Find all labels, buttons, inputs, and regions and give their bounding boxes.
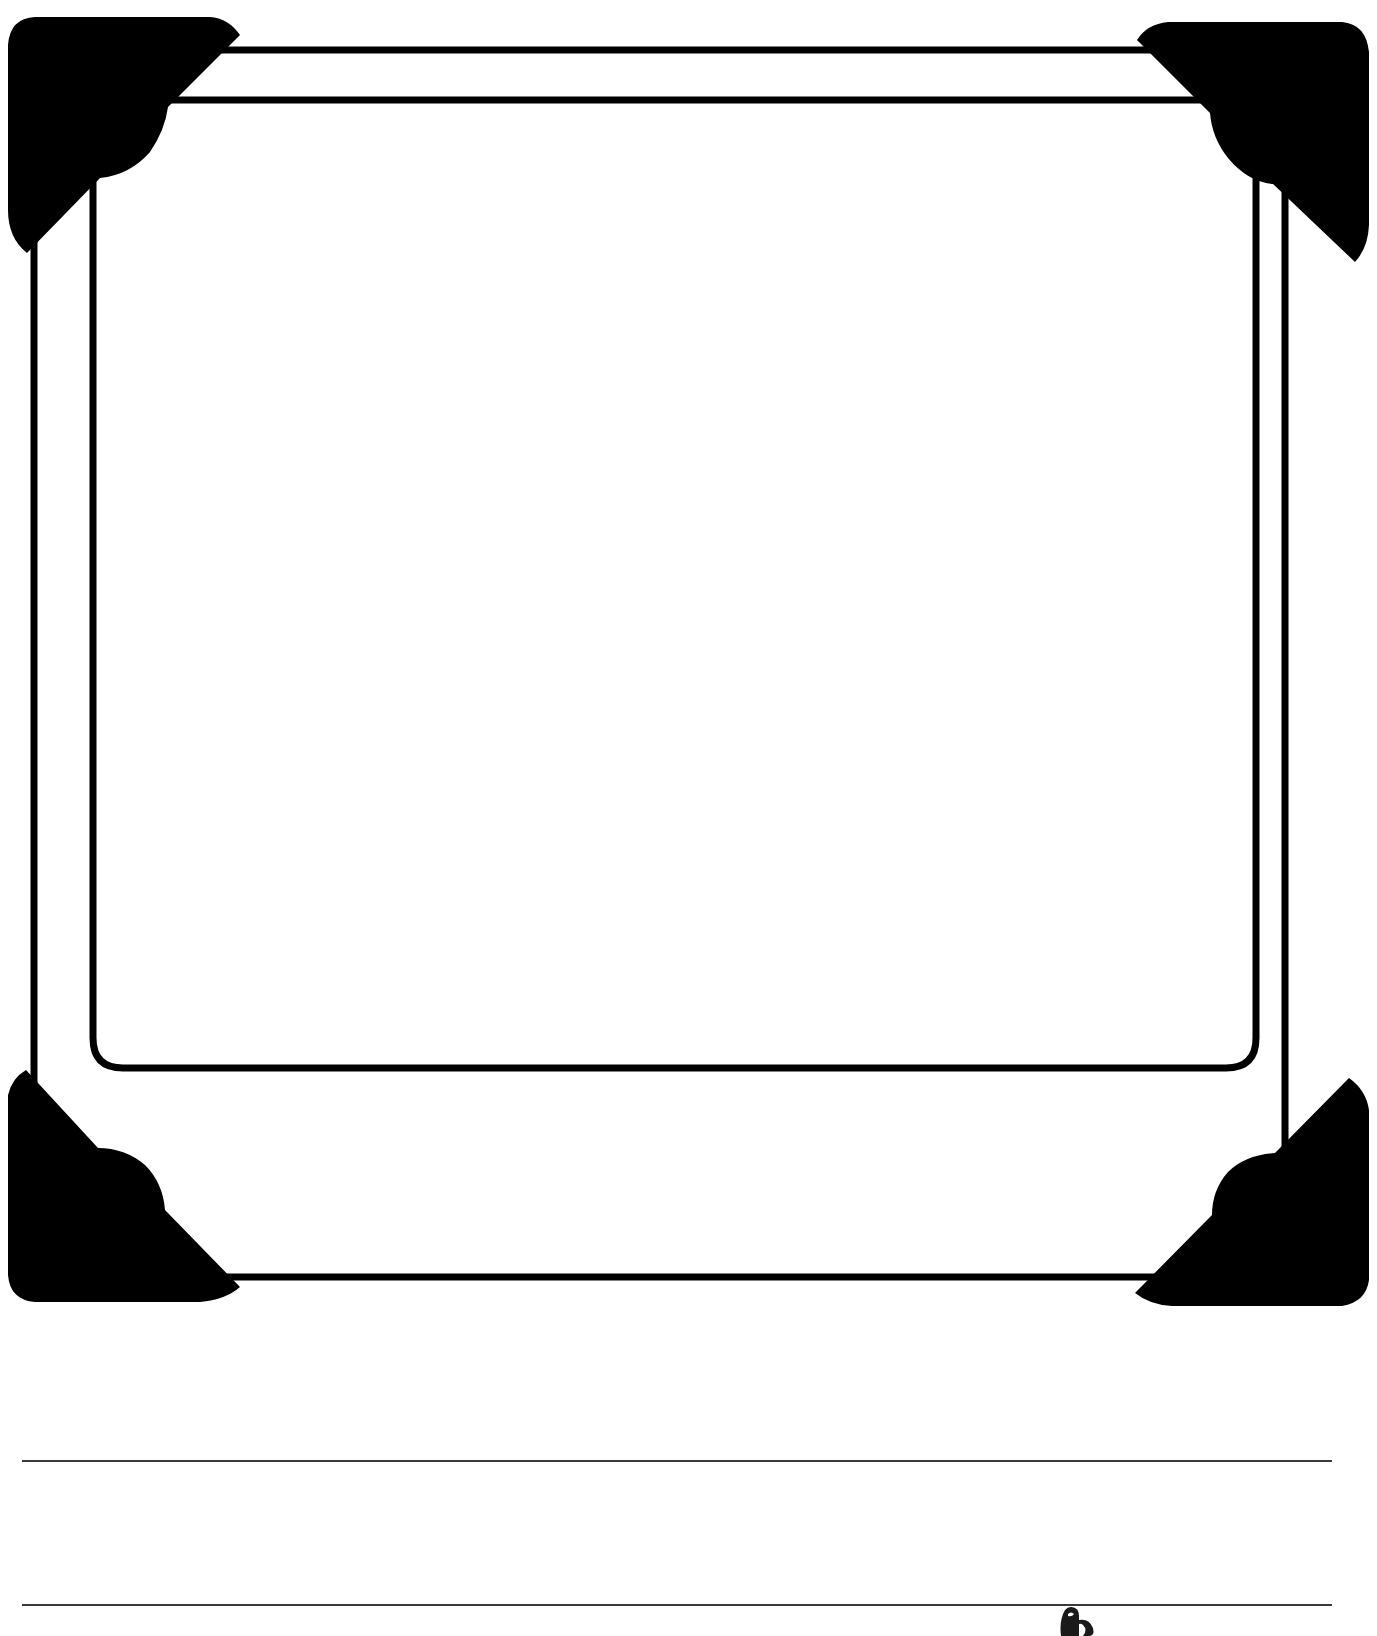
caption-line-1-text	[22, 1420, 1332, 1460]
photo-frame	[0, 0, 1377, 1320]
writing-line-2[interactable]	[22, 1604, 1332, 1606]
photo-corner-icon-bottom-right	[1135, 1078, 1369, 1306]
cup-icon	[1055, 1606, 1105, 1636]
caption-line-2-text	[22, 1564, 1332, 1604]
photo-corner-icon-bottom-left	[8, 1070, 240, 1302]
inner-photo-area[interactable]	[93, 100, 1256, 1068]
writing-line-1[interactable]	[22, 1460, 1332, 1462]
